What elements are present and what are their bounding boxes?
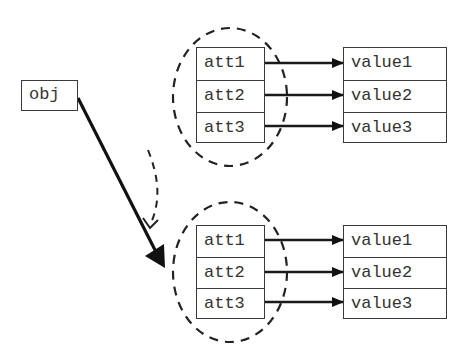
bottom-value-row: value1 [344,226,446,257]
value-label: value2 [351,263,412,282]
top-attribute-row: att1 [197,48,264,80]
attribute-label: att2 [204,86,245,105]
bottom-value-box: value1 value2 value3 [343,225,447,319]
bottom-attribute-row: att3 [197,288,264,320]
dashed-arrowhead-icon [143,218,158,228]
value-label: value2 [351,86,412,105]
object-box: obj [21,80,78,111]
top-value-row: value1 [344,48,446,80]
attribute-label: att1 [204,53,245,72]
bottom-value-row: value2 [344,257,446,288]
top-value-row: value3 [344,112,446,144]
bottom-attribute-box: att1 att2 att3 [196,225,265,319]
attribute-label: att2 [204,263,245,282]
top-attribute-row: att3 [197,112,264,144]
attribute-label: att3 [204,294,245,313]
value-label: value1 [351,53,412,72]
edge-obj-to-bottom-group [78,98,156,252]
value-label: value3 [351,118,412,137]
attribute-label: att3 [204,118,245,137]
top-value-box: value1 value2 value3 [343,47,447,143]
attribute-label: att1 [204,231,245,250]
edge-dashed-copy [148,150,157,225]
top-attribute-box: att1 att2 att3 [196,47,265,143]
value-label: value1 [351,231,412,250]
value-label: value3 [351,294,412,313]
top-attribute-row: att2 [197,80,264,112]
object-label: obj [29,85,60,104]
bottom-value-row: value3 [344,288,446,320]
top-value-row: value2 [344,80,446,112]
bottom-attribute-row: att1 [197,226,264,257]
bottom-attribute-row: att2 [197,257,264,288]
